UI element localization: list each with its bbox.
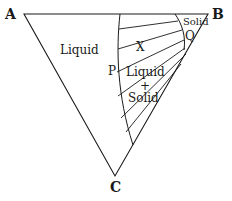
region-label-solid: Solid — [183, 17, 209, 27]
point-label-x: X — [136, 41, 145, 53]
point-label-p: P — [108, 65, 116, 77]
diagram-lines — [0, 0, 232, 201]
region-label-liquid-plus-solid-1: Liquid — [126, 66, 165, 78]
vertex-label-c: C — [110, 180, 121, 194]
vertex-label-a: A — [5, 7, 16, 21]
figure-caption-cropped — [28, 196, 208, 201]
region-label-liquid: Liquid — [60, 44, 99, 56]
triangle-outline — [24, 14, 208, 176]
vertex-label-b: B — [212, 7, 224, 21]
region-label-liquid-plus-solid-3: Solid — [128, 92, 159, 104]
ternary-phase-diagram: A B C Liquid Solid P Q X Liquid + Solid — [0, 0, 232, 201]
liquidus-curve-p — [118, 14, 133, 145]
point-label-q: Q — [185, 30, 195, 42]
